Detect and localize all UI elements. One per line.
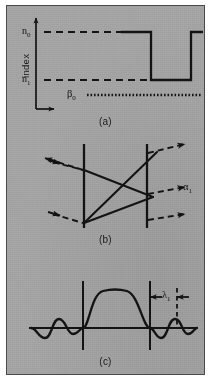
panel-a-n1-subscript: 1 (27, 79, 31, 87)
panel-a-n1-tick-label: n1 (22, 73, 31, 87)
panel-a-caption: (a) (7, 116, 204, 127)
panel-b-caption: (b) (7, 234, 204, 245)
panel-a-beta-subscript: 0 (72, 94, 76, 102)
panel-b-alpha1-label: α1 (183, 181, 192, 195)
panel-c-lambda-subscript: 1 (167, 295, 171, 303)
panel-b-outgoing-ray-middle (148, 187, 185, 194)
panel-b-ray-diagram: α1 (7, 140, 204, 232)
panel-c-svg (7, 264, 204, 356)
panel-b-outgoing-ray-bottom (148, 214, 185, 220)
panel-a-n0-subscript: 0 (27, 31, 31, 39)
panel-c-field-curve (31, 290, 197, 339)
panel-c-caption: (c) (7, 356, 204, 367)
panel-c-lambda1-label: λ1 (162, 289, 171, 303)
panel-c-mode-field-profile: λ1 (7, 264, 204, 356)
panel-a-step-index-profile (121, 32, 203, 80)
panel-a-n0-tick-label: n0 (22, 25, 31, 39)
scanned-figure-plate: index n0 n1 β0 (a) (6, 5, 205, 375)
panel-b-svg (7, 140, 204, 232)
panel-a-index-profile: index n0 n1 β0 (7, 6, 204, 118)
panel-a-beta0-label: β0 (67, 88, 76, 102)
figure-root: index n0 n1 β0 (a) (0, 0, 213, 382)
panel-b-outgoing-ray-top (148, 144, 185, 153)
panel-a-svg (7, 6, 204, 118)
panel-b-alpha-subscript: 1 (189, 187, 193, 195)
